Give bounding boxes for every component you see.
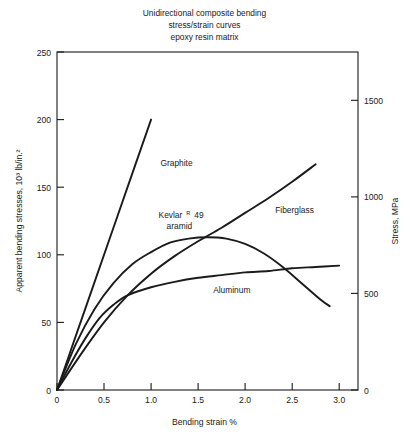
y-axis-right-ticks <box>351 100 358 390</box>
label-kevlar-grade: 49 <box>194 210 204 220</box>
y-tick-label-0: 0 <box>46 386 51 396</box>
y-tick-label-150: 150 <box>37 183 52 193</box>
plot-frame <box>57 52 358 390</box>
x-axis-ticks <box>57 383 339 390</box>
x-tick-label-1-0: 1.0 <box>145 395 157 405</box>
chart-figure: Unidirectional composite bending stress/… <box>0 0 409 438</box>
y-right-tick-label-0: 0 <box>364 386 369 396</box>
y-axis-left-ticks <box>57 52 64 390</box>
y-right-tick-label-1000: 1000 <box>364 192 383 202</box>
y-axis-right-title: Stress, MPa <box>390 197 400 244</box>
y-right-tick-label-1500: 1500 <box>364 96 383 106</box>
title-line-1: Unidirectional composite bending <box>143 8 267 18</box>
y-right-tick-label-500: 500 <box>364 289 379 299</box>
x-axis-labels: 0 0.5 1.0 1.5 2.0 2.5 3.0 <box>55 395 346 405</box>
y-axis-left-labels: 250 200 150 100 50 0 <box>37 48 52 396</box>
x-tick-label-0: 0 <box>55 395 60 405</box>
x-tick-label-3-0: 3.0 <box>333 395 345 405</box>
y-axis-right-labels: 1500 1000 500 0 <box>364 96 383 396</box>
title-line-2: stress/strain curves <box>168 20 240 30</box>
label-kevlar-aramid: aramid <box>167 221 193 231</box>
label-aluminum: Aluminum <box>213 285 250 295</box>
label-kevlar-group: Kevlar R 49 aramid <box>159 210 204 232</box>
curve-kevlar-49-aramid <box>57 237 330 390</box>
label-kevlar-registered-mark: R <box>186 210 190 216</box>
data-curves <box>57 120 339 390</box>
chart-title: Unidirectional composite bending stress/… <box>143 8 267 42</box>
y-axis-left-title: Apparent bending stresses, 10³ lb/in.² <box>14 149 24 292</box>
y-tick-label-200: 200 <box>37 115 52 125</box>
label-graphite: Graphite <box>160 158 192 168</box>
x-tick-label-0-5: 0.5 <box>98 395 110 405</box>
title-line-3: epoxy resin matrix <box>171 32 240 42</box>
x-axis-title: Bending strain % <box>172 417 237 427</box>
curve-graphite <box>57 120 151 390</box>
x-tick-label-1-5: 1.5 <box>192 395 204 405</box>
y-tick-label-100: 100 <box>37 250 52 260</box>
x-tick-label-2-5: 2.5 <box>286 395 298 405</box>
y-tick-label-250: 250 <box>37 48 52 58</box>
x-tick-label-2-0: 2.0 <box>239 395 251 405</box>
stress-strain-chart: Unidirectional composite bending stress/… <box>0 0 409 438</box>
y-tick-label-50: 50 <box>41 318 51 328</box>
label-kevlar: Kevlar <box>159 210 183 220</box>
label-fiberglass: Fiberglass <box>275 205 314 215</box>
